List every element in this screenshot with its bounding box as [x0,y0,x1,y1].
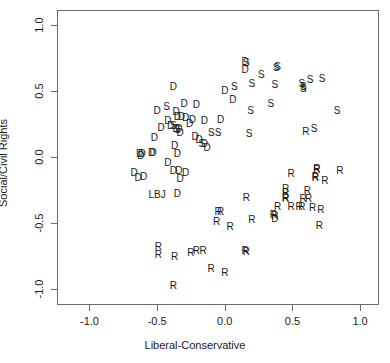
data-point-d: D [176,128,183,138]
y-tick-mark [51,223,57,224]
data-point-r: R [321,176,328,186]
x-tick-mark [89,305,90,311]
scatter-plot-figure: DDSDDDDDDDDDDDSDDSDDDDDSDDSDDDDDDDDDDDDD… [0,0,390,363]
data-point-s: S [319,74,326,84]
x-tick-label: 1.0 [352,315,367,327]
data-point-r: R [336,166,343,176]
data-point-d: D [149,148,156,158]
data-point-d: D [139,149,146,159]
x-tick-mark [225,305,226,311]
data-point-s: S [215,128,222,138]
data-point-r: R [227,222,234,232]
data-point-d: D [176,174,183,184]
x-tick-mark [157,305,158,311]
data-point-s: S [274,62,281,72]
data-point-d: D [221,86,228,96]
data-point-d: D [153,106,160,116]
data-point-r: R [171,252,178,262]
data-point-d: D [229,95,236,105]
y-tick-mark [51,157,57,158]
x-tick-label: 0.5 [285,315,300,327]
data-point-r: R [208,264,215,274]
data-point-d: D [204,143,211,153]
data-point-d: D [158,123,165,133]
x-tick-label: -0.5 [148,315,167,327]
y-tick-mark [51,289,57,290]
data-point-r: R [316,221,323,231]
data-point-d: D [201,116,208,126]
data-point-s: S [300,84,307,94]
data-point-d: D [241,65,248,75]
data-point-s: S [258,70,265,80]
y-tick-label: -0.5 [33,213,45,232]
data-point-s: S [271,80,278,90]
x-axis-title: Liberal-Conservative [0,339,390,351]
data-point-d: D [140,172,147,182]
data-point-s: S [247,106,254,116]
y-tick-label: 0.5 [33,83,45,98]
data-point-d: D [170,82,177,92]
data-point-s: S [231,82,238,92]
data-point-r: R [317,205,324,215]
y-tick-mark [51,91,57,92]
data-point-s: S [334,106,341,116]
data-point-r: R [248,215,255,225]
data-point-s: S [267,99,274,109]
data-point-d: D [217,115,224,125]
data-point-r: R [243,247,250,257]
data-point-r: R [312,173,319,183]
data-point-r: R [155,250,162,260]
data-point-d: D [151,133,158,143]
y-tick-label: -1.0 [33,280,45,299]
data-point-r: R [287,169,294,179]
data-point-r: R [221,268,228,278]
data-point-r: R [243,193,250,203]
data-point-d: D [186,119,193,129]
data-point-d: D [174,189,181,199]
data-point-r: R [199,246,206,256]
data-point-r: R [213,217,220,227]
data-point-lbj: LBJ [148,190,165,200]
data-point-r: R [298,202,305,212]
x-tick-mark [360,305,361,311]
data-point-s: S [311,124,318,134]
data-point-r: R [170,281,177,291]
y-tick-label: 1.0 [33,17,45,32]
y-tick-label: 0.0 [33,149,45,164]
data-point-d: D [181,99,188,109]
data-point-r: R [302,127,309,137]
data-point-d: D [271,214,278,224]
data-point-s: S [208,128,215,138]
data-point-d: D [174,149,181,159]
y-tick-mark [51,25,57,26]
data-point-s: S [246,129,253,139]
data-point-s: S [248,79,255,89]
x-tick-label: -1.0 [80,315,99,327]
data-point-s: S [307,75,314,85]
data-point-r: R [309,203,316,213]
data-point-d: D [193,100,200,110]
x-tick-mark [292,305,293,311]
data-point-r: R [287,202,294,212]
data-point-s: S [163,102,170,112]
data-point-layer: DDSDDDDDDDDDDDSDDSDDDDDSDDSDDDDDDDDDDDDD… [57,10,379,305]
x-tick-label: 0.0 [217,315,232,327]
y-axis-title: Social/Civil Rights [0,119,9,207]
